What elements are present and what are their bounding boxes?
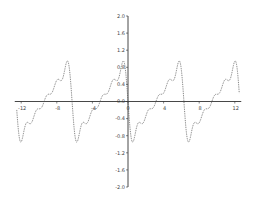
y-tick-label: 1.6 [117,30,125,36]
x-tick-label: 12 [233,105,239,111]
y-tick-label: -1.6 [115,167,125,173]
y-tick-label: -0.4 [115,115,125,121]
chart: 2.01.61.20.80.40.0-0.4-0.8-1.2-1.6-2.0 -… [0,0,254,205]
x-tick-label: 0 [126,105,129,111]
x-tick-label: 4 [163,105,166,111]
y-tick-label: 1.2 [117,47,125,53]
y-tick-label: -1.2 [115,150,125,156]
y-tick-label: 0.8 [117,64,125,70]
x-tick-label: -8 [55,105,60,111]
y-tick-label: 2.0 [117,13,125,19]
x-tick-label: -12 [18,105,26,111]
x-tick-label: -4 [91,105,96,111]
y-tick-label: 0.4 [117,81,125,87]
x-tick-label: 8 [199,105,202,111]
y-tick-label: -2.0 [115,184,125,190]
y-tick-label: -0.8 [115,133,125,139]
